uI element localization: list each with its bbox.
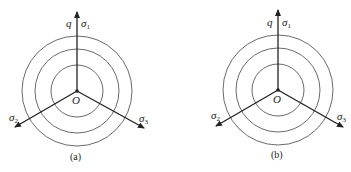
panel-b: q σ1 σ2 σ3 O (b) xyxy=(211,10,346,161)
axis-sigma3-arrow xyxy=(77,91,144,128)
label-sigma1: σ1 xyxy=(81,17,90,31)
diagram-canvas: q σ1 σ2 σ3 O (a) q σ1 σ2 σ3 O (b) xyxy=(0,0,351,172)
axis-sigma3-arrow xyxy=(278,90,343,127)
panel-a: q σ1 σ2 σ3 O (a) xyxy=(9,12,148,163)
label-sigma2: σ2 xyxy=(9,111,18,125)
caption-b: (b) xyxy=(271,149,283,161)
caption-a: (a) xyxy=(70,151,81,163)
axis-sigma2-arrow xyxy=(15,91,77,127)
axis-sigma2-arrow xyxy=(216,90,278,126)
label-q: q xyxy=(66,17,72,29)
label-sigma2: σ2 xyxy=(211,109,220,123)
label-sigma3: σ3 xyxy=(337,110,346,124)
label-q: q xyxy=(267,16,273,28)
label-origin: O xyxy=(273,93,281,105)
label-sigma3: σ3 xyxy=(139,112,148,126)
label-origin: O xyxy=(72,94,80,106)
label-sigma1: σ1 xyxy=(282,16,291,30)
origin-dot xyxy=(75,89,79,93)
origin-dot xyxy=(276,88,280,92)
